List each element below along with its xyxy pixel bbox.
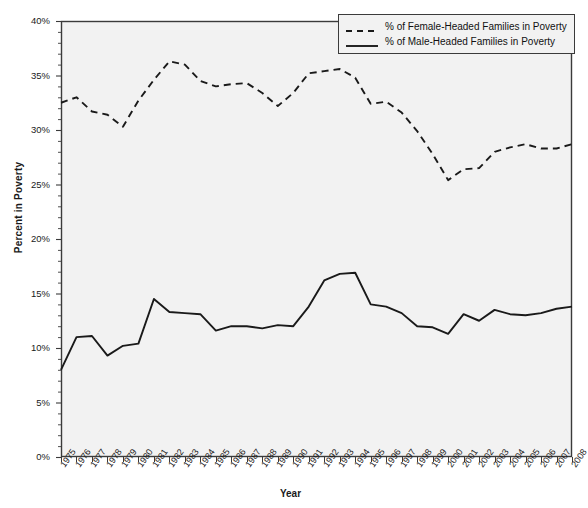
y-tick-label: 20% (10, 234, 50, 244)
y-tick-label: 10% (10, 343, 50, 353)
y-axis-title: Percent in Poverty (13, 138, 24, 278)
x-axis-title: Year (0, 488, 581, 499)
y-tick-label: 35% (10, 71, 50, 81)
legend-solid-line-icon (345, 37, 379, 47)
legend-item: % of Male-Headed Families in Poverty (345, 34, 567, 49)
plot-background (61, 21, 572, 457)
legend-dashed-line-icon (345, 22, 379, 32)
y-tick-label: 0% (10, 452, 50, 462)
y-tick-label: 5% (10, 398, 50, 408)
legend-item: % of Female-Headed Families in Poverty (345, 19, 567, 34)
y-tick-label: 15% (10, 289, 50, 299)
y-tick-label: 25% (10, 180, 50, 190)
y-tick-label: 30% (10, 125, 50, 135)
legend-label: % of Male-Headed Families in Poverty (385, 36, 555, 47)
y-tick-label: 40% (10, 16, 50, 26)
chart-legend: % of Female-Headed Families in Poverty% … (338, 14, 575, 54)
legend-label: % of Female-Headed Families in Poverty (385, 21, 567, 32)
